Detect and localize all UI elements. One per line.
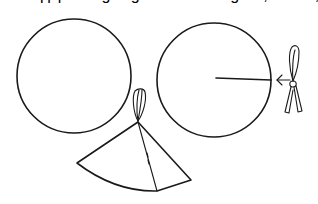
craft-cone-diagram: Plain paper circle Cut circle along a ra… [0, 0, 318, 204]
ribbon-bow-icon [285, 46, 302, 113]
step-1-plain-circle: Plain paper circle [0, 0, 131, 133]
arrow-left-icon [277, 75, 290, 85]
paper-circle [17, 19, 131, 133]
radius-cut-line [216, 78, 271, 80]
paper-cone [77, 122, 191, 191]
step-3-label: Overlap the cut edges to form a cone; bo… [0, 0, 318, 3]
apex-bow-icon [133, 89, 145, 121]
step-2-cut-circle: Cut circle along a radius from edge to c… [0, 0, 318, 137]
